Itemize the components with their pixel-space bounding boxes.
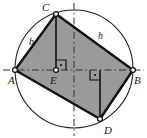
vertex-label-E: E	[49, 74, 57, 86]
vertex-dot-E	[54, 68, 59, 73]
side-label-b: b	[29, 36, 34, 47]
vertex-dot-A	[13, 68, 18, 73]
vertex-label-C: C	[42, 1, 50, 13]
vertex-dot-C	[54, 12, 59, 17]
geometry-figure: A C B D E b h	[0, 0, 147, 138]
side-label-h: h	[98, 30, 103, 41]
vertex-label-A: A	[7, 74, 15, 86]
vertex-label-D: D	[103, 124, 112, 136]
figure-canvas: A C B D E b h	[0, 0, 147, 138]
vertex-label-B: B	[134, 74, 141, 86]
vertex-dot-B	[131, 68, 136, 73]
vertex-dot-D	[98, 117, 103, 122]
